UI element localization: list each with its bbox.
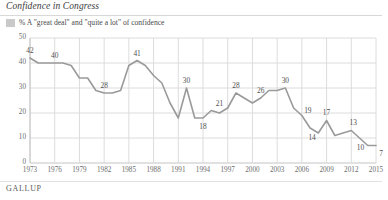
x-tick-label: 1982 bbox=[91, 166, 117, 174]
x-tick-label: 2000 bbox=[239, 166, 265, 174]
source-attribution: GALLUP bbox=[6, 184, 42, 193]
footer-divider bbox=[0, 181, 382, 182]
data-label: 14 bbox=[303, 133, 321, 142]
y-tick-label: 50 bbox=[6, 33, 26, 41]
data-label: 17 bbox=[318, 108, 336, 117]
x-tick-label: 1997 bbox=[215, 166, 241, 174]
data-label: 10 bbox=[352, 143, 370, 152]
data-label: 21 bbox=[210, 99, 228, 108]
data-label: 28 bbox=[95, 81, 113, 90]
y-tick-label: 20 bbox=[6, 108, 26, 116]
data-label: 30 bbox=[276, 76, 294, 85]
y-tick-label: 30 bbox=[6, 83, 26, 91]
x-tick-label: 1988 bbox=[141, 166, 167, 174]
chart-legend: % A "great deal" and "quite a lot" of co… bbox=[6, 18, 164, 27]
plot-area: 01020304050 1973197619791982198519881991… bbox=[0, 30, 382, 182]
x-tick-label: 2012 bbox=[338, 166, 364, 174]
data-label: 28 bbox=[227, 81, 245, 90]
data-label: 42 bbox=[21, 46, 39, 55]
title-divider bbox=[0, 15, 382, 16]
x-tick-label: 1979 bbox=[66, 166, 92, 174]
x-tick-label: 2006 bbox=[289, 166, 315, 174]
x-tick-label: 2009 bbox=[314, 166, 340, 174]
x-tick-label: 1985 bbox=[116, 166, 142, 174]
page-title: Confidence in Congress bbox=[6, 1, 99, 11]
y-tick-label: 40 bbox=[6, 58, 26, 66]
x-tick-label: 1973 bbox=[17, 166, 43, 174]
data-label: 7 bbox=[372, 149, 388, 158]
legend-swatch-icon bbox=[6, 19, 15, 27]
x-tick-label: 2003 bbox=[264, 166, 290, 174]
x-tick-label: 1994 bbox=[190, 166, 216, 174]
data-label: 26 bbox=[252, 86, 270, 95]
data-label: 19 bbox=[299, 106, 317, 115]
x-tick-label: 1991 bbox=[165, 166, 191, 174]
data-label: 13 bbox=[344, 118, 362, 127]
data-label: 40 bbox=[46, 51, 64, 60]
x-tick-label: 1976 bbox=[42, 166, 68, 174]
y-tick-label: 0 bbox=[6, 158, 26, 166]
y-tick-label: 10 bbox=[6, 133, 26, 141]
data-label: 30 bbox=[178, 76, 196, 85]
legend-label: % A "great deal" and "quite a lot" of co… bbox=[19, 18, 164, 27]
data-label: 18 bbox=[194, 122, 212, 131]
x-tick-label: 2015 bbox=[363, 166, 388, 174]
data-label: 41 bbox=[128, 49, 146, 58]
